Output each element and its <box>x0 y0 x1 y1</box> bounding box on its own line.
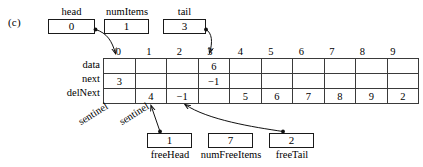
freetail-value-box: 2 <box>269 133 314 148</box>
table-row-data: 6 <box>104 59 419 74</box>
cell-data-0 <box>104 59 136 74</box>
column-index-1: 1 <box>134 46 165 58</box>
cell-delnext-1: 4 <box>135 89 167 104</box>
numfreeitems-value-box: 7 <box>208 133 253 148</box>
cell-delnext-6: 7 <box>293 89 325 104</box>
cell-data-1 <box>135 59 167 74</box>
cell-delnext-5: 6 <box>261 89 293 104</box>
column-index-6: 6 <box>286 46 317 58</box>
head-label: head <box>48 6 95 18</box>
sentinel-label-0: sentinel <box>76 100 110 127</box>
cell-data-5 <box>261 59 293 74</box>
row-label-delnext: delNext <box>54 86 100 100</box>
cell-data-6 <box>293 59 325 74</box>
tail-value-box: 3 <box>163 19 206 34</box>
cell-next-6 <box>293 74 325 89</box>
cell-delnext-8: 9 <box>356 89 388 104</box>
numitems-label: numItems <box>96 6 158 18</box>
cell-next-0: 3 <box>104 74 136 89</box>
cell-delnext-4: 5 <box>230 89 262 104</box>
cell-next-9 <box>387 74 419 89</box>
cell-next-5 <box>261 74 293 89</box>
numfreeitems-label: numFreeItems <box>199 149 263 161</box>
cell-data-8 <box>356 59 388 74</box>
cell-data-2 <box>167 59 199 74</box>
sentinel-label-1: sentinel <box>117 100 151 127</box>
head-value-box: 0 <box>48 19 95 34</box>
tail-label: tail <box>163 6 206 18</box>
table-row-next: 3 −1 <box>104 74 419 89</box>
table-row-delnext: 4 −1 5 6 7 8 9 2 <box>104 89 419 104</box>
cell-delnext-7: 8 <box>324 89 356 104</box>
freehead-value-box: 1 <box>147 133 192 148</box>
figure-label: (c) <box>8 16 21 28</box>
freehead-pointer-arrow <box>151 106 162 134</box>
column-index-9: 9 <box>378 46 409 58</box>
column-index-5: 5 <box>256 46 287 58</box>
cell-data-4 <box>230 59 262 74</box>
column-index-7: 7 <box>317 46 348 58</box>
array-table: 6 3 −1 4 −1 5 6 7 8 <box>103 58 419 104</box>
freehead-label: freeHead <box>143 149 197 161</box>
cell-next-3: −1 <box>198 74 230 89</box>
freetail-label: freeTail <box>265 149 319 161</box>
cell-delnext-9: 2 <box>387 89 419 104</box>
cell-next-8 <box>356 74 388 89</box>
column-index-2: 2 <box>164 46 195 58</box>
figure-canvas: (c) head 0 numItems 1 tail 3 0 1 2 3 4 5… <box>0 0 423 167</box>
column-index-3: 3 <box>195 46 226 58</box>
cell-next-2 <box>167 74 199 89</box>
column-index-0: 0 <box>103 46 134 58</box>
cell-data-3: 6 <box>198 59 230 74</box>
numitems-value-box: 1 <box>104 19 149 34</box>
column-index-4: 4 <box>225 46 256 58</box>
cell-delnext-2: −1 <box>167 89 199 104</box>
cell-next-7 <box>324 74 356 89</box>
row-label-data: data <box>54 58 100 72</box>
column-index-8: 8 <box>347 46 378 58</box>
cell-next-4 <box>230 74 262 89</box>
cell-data-9 <box>387 59 419 74</box>
cell-delnext-0 <box>104 89 136 104</box>
freetail-pointer-arrow <box>185 105 285 134</box>
cell-next-1 <box>135 74 167 89</box>
row-label-next: next <box>54 72 100 86</box>
row-label-column: data next delNext <box>50 58 100 100</box>
cell-data-7 <box>324 59 356 74</box>
cell-delnext-3 <box>198 89 230 104</box>
